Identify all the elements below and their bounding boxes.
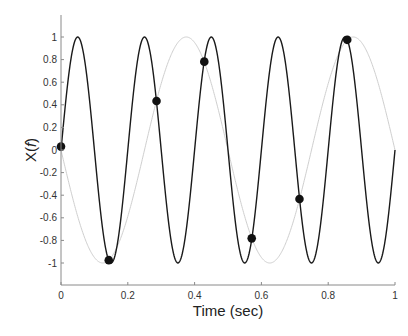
- y-tick-label: -1: [48, 258, 57, 269]
- y-axis-label: X(f): [22, 138, 39, 162]
- x-axis-label: Time (sec): [193, 302, 263, 319]
- y-tick-label: -0.8: [40, 235, 58, 246]
- y-tick-label: 0.6: [43, 77, 57, 88]
- y-tick-label: -0.4: [40, 190, 58, 201]
- sample-point: [343, 36, 352, 45]
- sample-point: [104, 256, 113, 265]
- y-tick-label: 0: [51, 145, 57, 156]
- chart: 10.80.60.40.20-0.2-0.4-0.6-0.8-1 00.20.4…: [0, 0, 408, 336]
- plot-curves: [61, 37, 395, 263]
- y-tick-label: 0.2: [43, 122, 57, 133]
- x-tick-label: 0.2: [121, 290, 135, 301]
- y-tick-label: -0.2: [40, 167, 58, 178]
- sample-point: [295, 195, 304, 204]
- x-tick-label: 1: [392, 290, 398, 301]
- sample-point: [152, 97, 161, 106]
- sample-point: [247, 234, 256, 243]
- sample-point: [200, 57, 209, 66]
- sample-points: [57, 36, 352, 265]
- y-tick-label: 1: [51, 32, 57, 43]
- x-tick-label: 0.8: [321, 290, 335, 301]
- series-5hz-line: [61, 37, 395, 263]
- x-tick-label: 0.6: [254, 290, 268, 301]
- y-tick-label: 0.8: [43, 54, 57, 65]
- x-tick-label: 0.4: [188, 290, 202, 301]
- x-tick-label: 0: [58, 290, 64, 301]
- y-tick-label: -0.6: [40, 212, 58, 223]
- y-tick-label: 0.4: [43, 99, 57, 110]
